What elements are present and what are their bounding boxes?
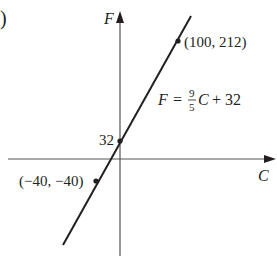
equation-denominator: 5	[189, 101, 195, 113]
point-y-intercept	[117, 138, 122, 143]
conversion-line	[63, 16, 191, 245]
part-label: )	[0, 7, 7, 30]
point-label-minus40: (−40, −40)	[19, 173, 83, 190]
x-axis-label: C	[258, 167, 269, 184]
equation: F = 9 5 C + 32	[157, 87, 241, 113]
equation-lhs: F	[157, 91, 168, 108]
equation-variable: C	[198, 91, 209, 108]
equation-equals: =	[173, 91, 182, 108]
fahrenheit-celsius-graph: ) C F (100, 212) 32 (−40, −40) F = 9 5 C…	[0, 0, 277, 256]
equation-rest: + 32	[212, 91, 241, 108]
point-label-32: 32	[99, 132, 114, 148]
y-axis-label: F	[103, 10, 114, 27]
point-100-212	[175, 38, 180, 43]
x-axis-arrow-icon	[264, 155, 276, 163]
point-label-100-212: (100, 212)	[184, 34, 247, 51]
equation-numerator: 9	[189, 87, 195, 99]
y-axis-arrow-icon	[116, 11, 124, 23]
point-minus40-minus40	[93, 178, 98, 183]
